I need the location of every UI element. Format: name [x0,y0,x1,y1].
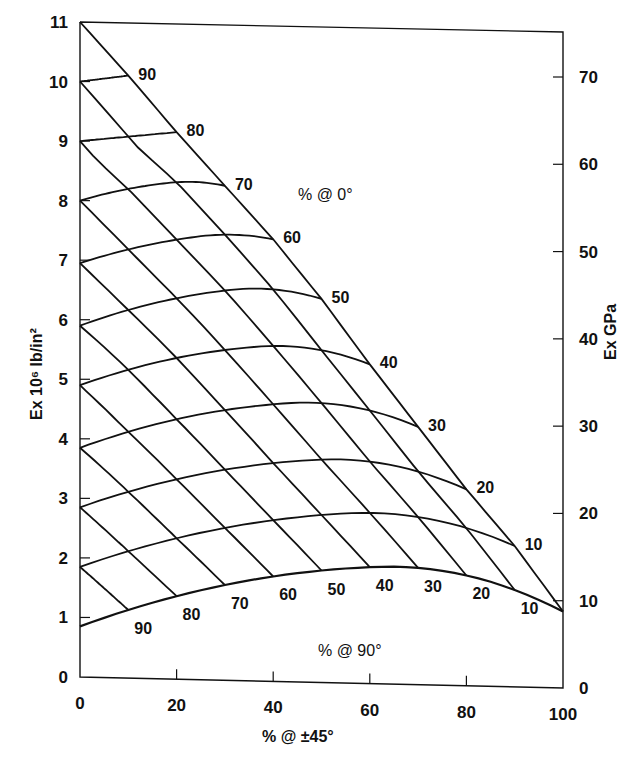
y-tick-left: 6 [59,311,68,330]
x-tick: 0 [75,694,84,713]
curve-0deg-0 [80,567,563,627]
x-tick: 80 [457,703,476,722]
label-0deg-20: 20 [476,479,494,496]
curve-0deg-50 [80,289,322,326]
label-0deg-60: 60 [283,229,301,246]
line-90deg-70 [80,448,225,585]
curve-labels: 908070605040302010908070605040302010 [134,66,542,637]
label-0deg-30: 30 [428,417,446,434]
y-tick-left: 1 [59,608,68,627]
curve-0deg-30 [80,403,418,448]
y-tick-left: 4 [59,430,69,449]
y-tick-right: 10 [579,592,598,611]
label-90deg-10: 10 [521,600,539,617]
label-90deg-40: 40 [376,577,394,594]
line-90deg-10 [80,82,515,591]
y-tick-left: 2 [59,549,68,568]
label-90deg-70: 70 [231,595,249,612]
y-tick-right: 30 [579,417,598,436]
constant-0deg-curves [80,22,563,626]
x-tick: 40 [264,698,283,717]
axes-box [80,22,563,688]
constant-90deg-lines [80,82,515,611]
line-90deg-40 [80,263,370,567]
curve-0deg-70 [80,182,225,201]
x-tick: 60 [360,701,379,720]
y-tick-left: 5 [59,370,68,389]
y-tick-right: 50 [579,243,598,262]
curve-0deg-90 [80,76,128,82]
label-0deg-80: 80 [187,122,205,139]
label-90deg-90: 90 [134,620,152,637]
label-90deg-30: 30 [424,578,442,595]
y-axis-title-right: Ex GPa [602,304,619,360]
y-tick-left: 10 [49,73,68,92]
region-label-90deg: % @ 90° [318,642,382,659]
x-tick: 100 [549,705,577,724]
x-axis-title: % @ ±45° [262,728,334,745]
label-90deg-20: 20 [472,585,490,602]
y-tick-right: 40 [579,330,598,349]
curve-0deg-10 [80,513,515,567]
line-90deg-50 [80,326,322,571]
line-90deg-20 [80,141,466,575]
label-0deg-10: 10 [525,536,543,553]
y-tick-right: 60 [579,155,598,174]
line-90deg-80 [80,507,177,596]
y-tick-left: 3 [59,489,68,508]
y-tick-left: 11 [50,13,68,32]
plot-frame [80,22,563,688]
line-90deg-90 [80,567,128,610]
line-90deg-60 [80,385,273,576]
label-0deg-70: 70 [235,176,253,193]
y-tick-right: 70 [579,68,598,87]
label-0deg-90: 90 [138,66,156,83]
y-tick-left: 7 [59,251,68,270]
y-tick-left: 0 [59,668,68,687]
y-tick-right: 0 [579,679,588,698]
boundary-line [80,22,563,612]
label-0deg-50: 50 [332,289,350,306]
y-tick-left: 9 [59,132,68,151]
label-90deg-50: 50 [328,581,346,598]
y-tick-right: 20 [579,504,598,523]
carpet-plot-chart: 0123456789101101020304050607002040608010… [0,0,630,761]
label-90deg-60: 60 [279,586,297,603]
label-90deg-80: 80 [183,606,201,623]
x-tick: 20 [167,696,186,715]
region-label-0deg: % @ 0° [298,186,353,203]
y-tick-left: 8 [59,192,68,211]
label-0deg-40: 40 [380,354,398,371]
y-axis-title-left: Ex 10⁶ lb/in² [28,328,45,420]
